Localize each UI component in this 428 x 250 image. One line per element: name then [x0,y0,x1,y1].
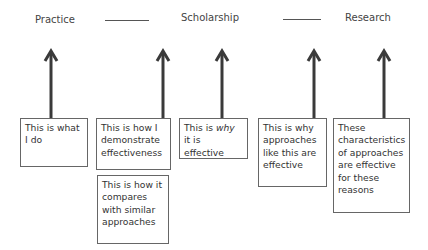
box-scholarship-compare: This is how it compares with similar app… [97,175,169,244]
box-scholarship-how: This is how I demonstrate effectiveness [96,118,171,170]
arrow-up-icon [216,51,228,118]
arrow-up-icon [45,51,57,118]
box-practice-what: This is what I do [20,118,88,167]
box-research-characteristics: These characteristics of approaches are … [333,118,410,213]
arrow-up-icon [157,51,169,118]
arrow-up-icon [308,51,320,118]
arrow-up-icon [378,51,390,118]
box-research-why: This is why approaches like this are eff… [258,118,327,187]
emphasis-why: why [216,122,235,133]
box-scholarship-why: This is why it is effective [179,118,248,159]
